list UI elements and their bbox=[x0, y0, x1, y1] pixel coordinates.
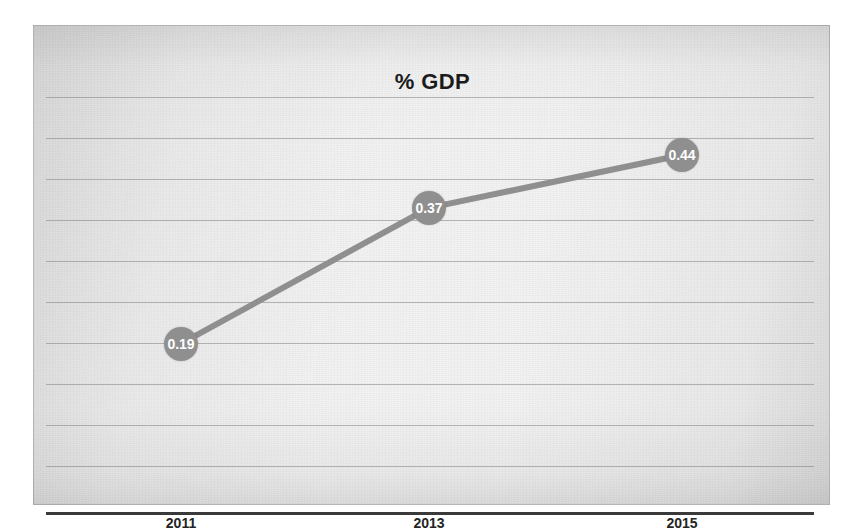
series-line-group bbox=[34, 26, 831, 506]
x-axis-tick-label: 2015 bbox=[622, 515, 742, 531]
x-axis-tick-label: 2013 bbox=[369, 515, 489, 531]
data-point-marker[interactable]: 0.19 bbox=[164, 327, 198, 361]
series-line-gdp bbox=[181, 155, 682, 344]
data-point-marker[interactable]: 0.44 bbox=[665, 138, 699, 172]
screenshot-root: % GDP 201120132015 0.190.370.44 bbox=[0, 0, 857, 532]
data-point-marker[interactable]: 0.37 bbox=[412, 191, 446, 225]
x-axis-tick-label: 2011 bbox=[121, 515, 241, 531]
chart-frame: % GDP 201120132015 0.190.370.44 bbox=[33, 25, 830, 505]
